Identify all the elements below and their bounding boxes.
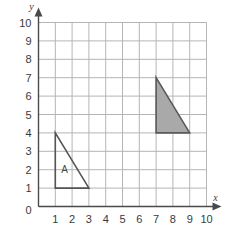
x-tick-label-2: 2 xyxy=(69,213,75,225)
coordinate-plane-svg: A 12345678910 123456789100 yx xyxy=(0,0,228,244)
y-tick-label-6: 6 xyxy=(25,90,31,102)
grid-lines xyxy=(39,23,207,207)
x-tick-label-9: 9 xyxy=(187,213,193,225)
y-tick-label-2: 2 xyxy=(25,164,31,176)
x-tick-label-4: 4 xyxy=(103,213,109,225)
x-tick-label-6: 6 xyxy=(136,213,142,225)
y-tick-label-1: 1 xyxy=(25,182,31,194)
x-tick-label-1: 1 xyxy=(52,213,58,225)
y-tick-label-4: 4 xyxy=(25,127,31,139)
x-axis-arrowhead xyxy=(213,203,222,211)
x-axis-tick-labels: 12345678910 xyxy=(52,213,212,225)
triangle-a-label: A xyxy=(61,164,68,175)
y-tick-label-5: 5 xyxy=(25,109,31,121)
y-tick-label-3: 3 xyxy=(25,145,31,157)
x-tick-label-5: 5 xyxy=(119,213,125,225)
y-axis-tick-labels: 123456789100 xyxy=(19,17,31,216)
axes xyxy=(35,8,222,211)
x-tick-label-7: 7 xyxy=(153,213,159,225)
y-axis-arrowhead xyxy=(35,8,43,17)
y-tick-label-9: 9 xyxy=(25,35,31,47)
coordinate-grid-figure: A 12345678910 123456789100 yx xyxy=(0,0,228,244)
x-tick-label-8: 8 xyxy=(170,213,176,225)
y-axis-label: y xyxy=(28,1,34,12)
y-tick-label-10: 10 xyxy=(19,17,31,29)
y-tick-label-8: 8 xyxy=(25,53,31,65)
x-axis-label: x xyxy=(212,192,218,203)
origin-tick-label: 0 xyxy=(25,204,31,216)
x-tick-label-10: 10 xyxy=(200,213,212,225)
y-tick-label-7: 7 xyxy=(25,72,31,84)
x-tick-label-3: 3 xyxy=(86,213,92,225)
